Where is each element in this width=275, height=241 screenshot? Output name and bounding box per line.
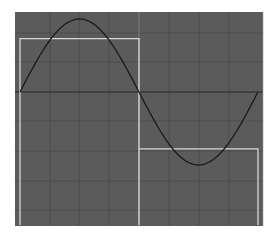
waveform-chart xyxy=(0,0,275,241)
